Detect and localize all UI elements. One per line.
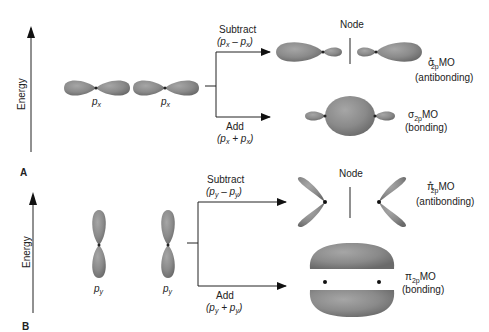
panel-label-b: B	[22, 321, 29, 332]
pi-star-label: π*2pMO	[427, 180, 455, 195]
py-orbital-1	[92, 210, 106, 278]
antibonding-label-a: (antibonding)	[415, 72, 473, 83]
energy-arrow-icon	[27, 26, 35, 38]
py-label-1: py	[93, 283, 104, 296]
panel-label-a: A	[20, 167, 27, 178]
energy-label-a: Energy	[16, 78, 27, 110]
add-expr-a: (px + px)	[217, 133, 253, 145]
energy-arrow-icon	[29, 192, 37, 205]
sigma-star-orbital	[276, 42, 422, 62]
node-label-b: Node	[339, 168, 363, 179]
add-expr-b: (py + py)	[206, 302, 242, 315]
antibonding-label-b: (antibonding)	[416, 196, 474, 207]
sigma-star-label: σ*2pMO	[428, 56, 455, 71]
mo-diagram: Energy A px px Subtract (px – px) Add (p…	[0, 0, 489, 332]
px-orbital-2	[133, 80, 199, 95]
add-label-a: Add	[226, 121, 244, 132]
subtract-label-b: Subtract	[207, 174, 244, 185]
bonding-label-a: (bonding)	[405, 122, 447, 133]
py-label-2: py	[162, 283, 173, 296]
px-orbital-1	[64, 80, 130, 95]
add-label-b: Add	[216, 290, 234, 301]
panel-b: Energy B py py Subtract (py – py) Add (p…	[21, 168, 474, 332]
py-orbital-2	[161, 210, 175, 278]
px-label-1: px	[91, 96, 102, 108]
energy-label-b: Energy	[21, 236, 32, 268]
pi-label: π2pMO	[405, 271, 436, 285]
pi-star-orbital	[298, 177, 406, 227]
panel-a: Energy A px px Subtract (px – px) Add (p…	[16, 19, 473, 178]
sigma-label: σ2pMO	[408, 109, 438, 123]
pi-orbital	[310, 243, 394, 317]
node-label-a: Node	[340, 19, 364, 30]
sigma-orbital	[305, 96, 395, 136]
px-label-2: px	[160, 96, 171, 108]
bonding-label-b: (bonding)	[402, 284, 444, 295]
subtract-label-a: Subtract	[219, 24, 256, 35]
subtract-expr-a: (px – px)	[217, 36, 253, 48]
subtract-expr-b: (py – py)	[206, 186, 242, 199]
